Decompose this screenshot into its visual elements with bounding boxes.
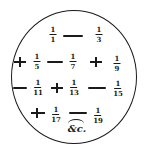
term-1-over-19: 1 19 bbox=[93, 107, 103, 124]
minus-sign bbox=[69, 112, 87, 114]
plus-sign bbox=[14, 56, 26, 68]
term-1-over-11: 1 11 bbox=[33, 79, 43, 96]
continuation-etc: &c. bbox=[68, 123, 87, 134]
plus-sign bbox=[31, 107, 45, 119]
minus-sign bbox=[88, 87, 106, 89]
term-1-over-13: 1 13 bbox=[69, 79, 79, 96]
term-1-over-3: 1 3 bbox=[96, 26, 103, 43]
plus-sign bbox=[51, 82, 63, 94]
term-1-over-7: 1 7 bbox=[70, 53, 77, 70]
minus-sign bbox=[47, 61, 63, 63]
term-1-over-9: 1 9 bbox=[114, 55, 121, 72]
term-1-over-15: 1 15 bbox=[113, 80, 123, 97]
term-1-over-5: 1 5 bbox=[34, 53, 41, 70]
minus-sign bbox=[63, 35, 83, 37]
plus-sign bbox=[90, 56, 102, 68]
term-1-over-17: 1 17 bbox=[51, 106, 61, 123]
term-1-over-1: 1 1 bbox=[50, 26, 57, 43]
minus-sign bbox=[13, 87, 27, 89]
